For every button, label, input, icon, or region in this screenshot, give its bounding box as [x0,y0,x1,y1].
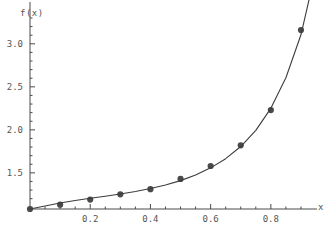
x-axis-tick-label: 0.4 [142,214,158,224]
function-plot: 0.20.40.60.81.52.02.53.0 [0,0,333,230]
y-axis-label: f(x) [20,8,44,18]
fitted-curve [30,0,310,209]
data-point-marker [238,142,244,148]
x-axis-tick-label: 0.2 [82,214,98,224]
x-axis-tick-label: 0.6 [203,214,219,224]
data-point-marker [298,27,304,33]
x-axis-tick-label: 0.8 [263,214,279,224]
x-axis-label: x [318,202,324,212]
y-axis-tick-label: 2.5 [7,82,23,92]
data-point-marker [87,196,93,202]
y-axis-tick-label: 1.5 [7,168,23,178]
plot-container: 0.20.40.60.81.52.02.53.0 f(x) x [0,0,333,230]
y-axis-tick-label: 3.0 [7,39,23,49]
y-axis-tick-label: 2.0 [7,125,23,135]
